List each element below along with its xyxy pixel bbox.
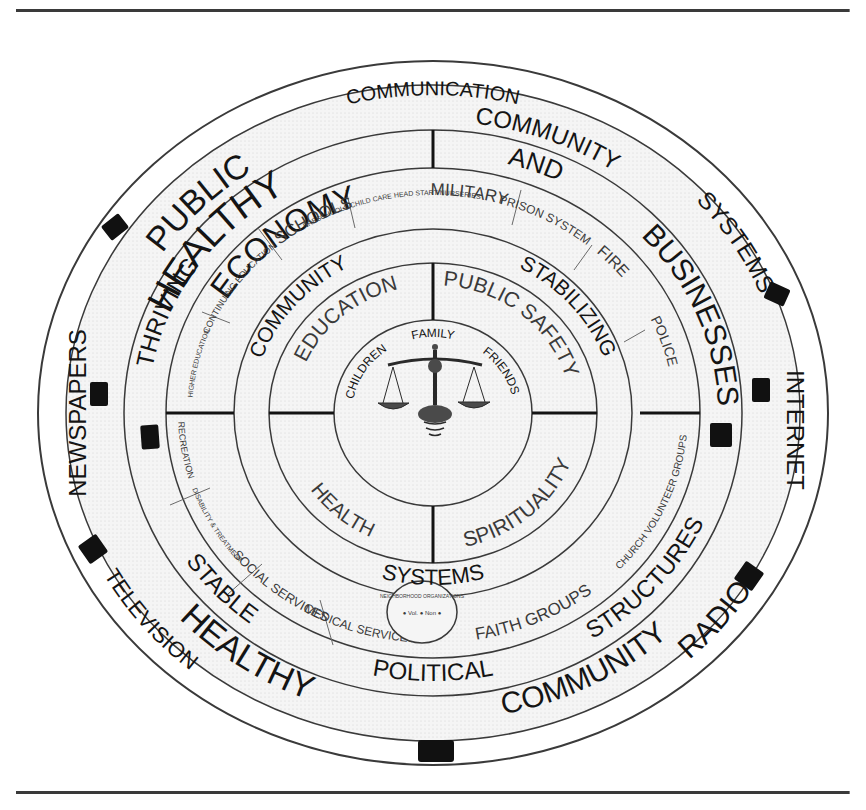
marker-square [710,423,732,447]
neighborhood-badge-inner: ● Vol. ● Non ● [403,610,442,616]
label-internet: INTERNET [782,370,809,490]
label-newspapers: NEWSPAPERS [64,329,91,497]
neighborhood-badge-title: NEIGHBORHOOD ORGANIZATIONS [380,593,465,599]
marker-square [752,378,770,402]
marker-square [418,740,454,762]
marker-square [140,424,160,449]
bottom-rule [16,791,850,794]
marker-square [90,382,108,406]
community-systems-diagram: COMMUNICATION NEWSPAPERS INTERNET TELEVI… [0,0,866,810]
